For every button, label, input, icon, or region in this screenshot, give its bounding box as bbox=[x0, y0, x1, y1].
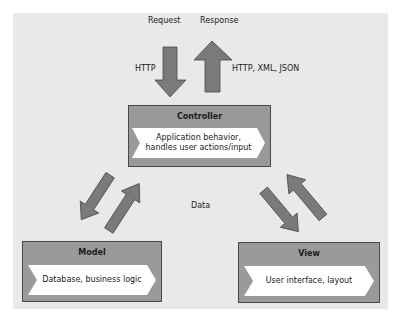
model-description: Database, business logic bbox=[28, 265, 156, 295]
model-box: Model Database, business logic bbox=[22, 241, 162, 302]
controller-description: Application behavior, handles user actio… bbox=[132, 128, 265, 158]
view-description: User interface, layout bbox=[244, 266, 374, 296]
data-label: Data bbox=[191, 201, 210, 210]
view-box: View User interface, layout bbox=[238, 242, 380, 303]
controller-box: Controller Application behavior, handles… bbox=[128, 105, 271, 167]
response-label: Response bbox=[200, 16, 238, 25]
view-title: View bbox=[239, 249, 379, 258]
controller-description-line1: Application behavior, bbox=[145, 133, 251, 143]
request-protocol-label: HTTP bbox=[135, 64, 155, 73]
request-label: Request bbox=[148, 16, 181, 25]
controller-description-line2: handles user actions/input bbox=[145, 143, 251, 153]
controller-title: Controller bbox=[129, 112, 270, 121]
model-title: Model bbox=[23, 248, 161, 257]
response-protocol-label: HTTP, XML, JSON bbox=[232, 64, 299, 73]
